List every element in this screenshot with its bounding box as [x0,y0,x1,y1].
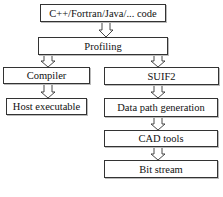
node-label: C++/Fortran/Java/... code [49,8,157,19]
node-label: Data path generation [117,102,204,113]
node-suif2: SUIF2 [104,67,219,85]
node-host-executable: Host executable [6,98,87,115]
node-cad-tools: CAD tools [104,130,218,147]
node-label: Compiler [27,70,67,81]
node-label: SUIF2 [147,71,175,82]
arrow-profiling-to-compiler [41,55,55,67]
arrow-datapath-to-cad [151,117,165,130]
node-profiling: Profiling [38,37,168,55]
node-compiler: Compiler [3,67,90,84]
arrow-cad-to-bitstream [151,147,165,160]
node-label: Host executable [13,101,80,112]
node-bit-stream: Bit stream [104,160,218,178]
node-label: Profiling [84,41,121,52]
arrow-compiler-to-host [41,84,55,98]
arrow-suif2-to-datapath [151,85,165,98]
node-label: Bit stream [139,164,182,175]
arrow-source-to-profiling [99,22,113,37]
arrow-profiling-to-suif2 [151,55,165,67]
node-data-path-generation: Data path generation [104,98,218,117]
node-source-code: C++/Fortran/Java/... code [40,4,166,22]
node-label: CAD tools [138,133,183,144]
